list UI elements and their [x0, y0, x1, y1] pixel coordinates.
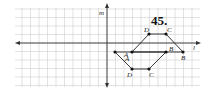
axis-m-label: m — [99, 9, 104, 17]
problem-number: 45. — [151, 13, 167, 28]
label-b-image: B — [169, 45, 174, 53]
label-a-original: A — [124, 55, 130, 63]
axis-l-left-arrow-icon — [15, 41, 20, 45]
point-a-image — [113, 50, 116, 53]
label-c-image: C — [149, 71, 154, 79]
axis-m-up-arrow-icon — [105, 3, 109, 8]
label-d-image: D — [126, 71, 132, 79]
label-b-original: B — [181, 54, 186, 62]
reflection-diagram: m l 45. D C A A B B D C — [0, 0, 210, 89]
axis-l-label: l — [193, 44, 195, 52]
point-b-image — [164, 50, 167, 53]
label-d-original: D — [143, 26, 149, 34]
axis-l-right-arrow-icon — [196, 41, 201, 45]
point-a-original — [130, 50, 133, 53]
label-c-original: C — [167, 26, 172, 34]
figure-image-outline — [115, 52, 166, 69]
